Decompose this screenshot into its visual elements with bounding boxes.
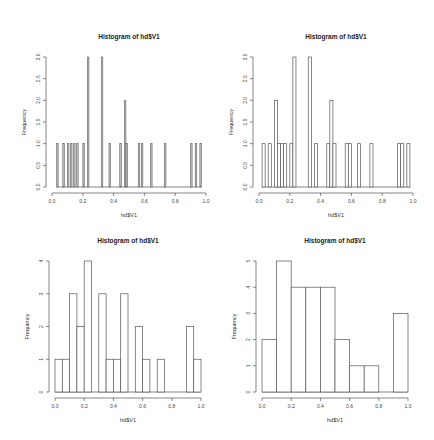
histogram-bar <box>126 144 128 187</box>
y-tick-label: 2.0 <box>35 97 41 104</box>
histogram-bar <box>157 359 164 392</box>
histogram-bar <box>350 366 365 392</box>
histogram-panel-1: Histogram of hd$V10.00.20.40.60.81.0hd$V… <box>21 33 210 218</box>
x-tick-label: 0.6 <box>139 403 146 409</box>
histogram-bar <box>84 261 91 392</box>
y-axis-label: Frequency <box>231 313 237 339</box>
histogram-bar <box>106 359 113 392</box>
histogram-panel-3: Histogram of hd$V10.00.20.40.60.81.0hd$V… <box>24 237 205 423</box>
histogram-bar <box>164 144 166 187</box>
histogram-bar <box>121 294 128 392</box>
chart-title: Histogram of hd$V1 <box>97 237 159 245</box>
histogram-bar <box>151 144 153 187</box>
x-tick-label: 0.0 <box>49 198 56 204</box>
histogram-bar <box>191 144 193 187</box>
y-tick-label: 1 <box>38 358 44 361</box>
histogram-bar <box>143 359 150 392</box>
histogram-bar <box>306 287 321 392</box>
x-tick-label: 0.0 <box>256 198 263 204</box>
y-tick-label: 4 <box>245 286 251 289</box>
x-tick-label: 0.6 <box>346 403 353 409</box>
histogram-bar <box>348 144 351 187</box>
histogram-bar <box>293 57 296 187</box>
x-axis-label: hd$V1 <box>121 212 137 218</box>
histogram-bar <box>398 144 401 187</box>
x-axis-label: hd$V1 <box>327 417 343 423</box>
y-axis-label: Frequency <box>24 313 30 339</box>
x-tick-label: 0.8 <box>375 403 382 409</box>
histogram-bar <box>262 340 277 392</box>
y-tick-label: 2.5 <box>242 75 248 82</box>
y-tick-label: 0.5 <box>35 162 41 169</box>
x-tick-label: 0.4 <box>317 198 324 204</box>
x-tick-label: 0.2 <box>79 198 86 204</box>
x-tick-label: 0.4 <box>110 198 117 204</box>
histogram-bar <box>70 294 77 392</box>
bars <box>55 261 201 392</box>
y-tick-label: 3.0 <box>242 53 248 60</box>
x-tick-label: 0.0 <box>52 403 59 409</box>
y-tick-label: 0.0 <box>242 183 248 190</box>
histogram-bar <box>333 144 336 187</box>
histogram-bar <box>320 287 335 392</box>
histogram-bar <box>63 144 65 187</box>
x-tick-label: 0.6 <box>141 198 148 204</box>
histogram-bar <box>330 100 333 187</box>
histogram-bar <box>327 144 330 187</box>
histogram-bar <box>99 294 106 392</box>
histogram-bar <box>277 144 280 187</box>
histogram-bar <box>135 327 142 393</box>
histogram-bar <box>74 144 76 187</box>
histogram-bar <box>194 359 201 392</box>
histogram-bar <box>83 144 85 187</box>
histogram-bar <box>186 327 193 393</box>
y-tick-label: 0.5 <box>242 162 248 169</box>
histogram-bar <box>284 144 287 187</box>
x-axis-label: hd$V1 <box>328 212 344 218</box>
y-tick-label: 0 <box>38 390 44 393</box>
y-tick-label: 3.0 <box>35 53 41 60</box>
x-tick-label: 1.0 <box>203 198 210 204</box>
histogram-bar <box>109 144 111 187</box>
y-tick-label: 3 <box>245 312 251 315</box>
x-axis-label: hd$V1 <box>120 417 136 423</box>
y-axis-label: Frequency <box>228 109 234 135</box>
x-tick-label: 0.4 <box>317 403 324 409</box>
histogram-bar <box>62 359 69 392</box>
x-tick-label: 0.2 <box>81 403 88 409</box>
chart-title: Histogram of hd$V1 <box>304 237 366 245</box>
x-tick-label: 0.8 <box>168 403 175 409</box>
histogram-bar <box>314 144 317 187</box>
histogram-bar <box>262 144 265 187</box>
histogram-bar <box>67 144 69 187</box>
histogram-grid: Histogram of hd$V10.00.20.40.60.81.0hd$V… <box>0 0 434 440</box>
histogram-bar <box>70 144 72 187</box>
x-tick-label: 0.0 <box>259 403 266 409</box>
histogram-bar <box>268 144 271 187</box>
bars <box>262 261 408 392</box>
x-tick-label: 0.2 <box>286 198 293 204</box>
histogram-bar <box>57 144 59 187</box>
histogram-panel-4: Histogram of hd$V10.00.20.40.60.81.0hd$V… <box>231 237 412 423</box>
histogram-bar <box>77 144 79 187</box>
y-tick-label: 3 <box>38 292 44 295</box>
x-tick-label: 0.4 <box>110 403 117 409</box>
y-tick-label: 0.0 <box>35 183 41 190</box>
y-tick-label: 1.5 <box>35 118 41 125</box>
chart-title: Histogram of hd$V1 <box>98 33 160 41</box>
y-tick-label: 1.0 <box>242 140 248 147</box>
histogram-bar <box>55 359 62 392</box>
histogram-bar <box>358 144 361 187</box>
histogram-bar <box>200 144 202 187</box>
x-tick-label: 0.8 <box>172 198 179 204</box>
histogram-bar <box>281 144 284 187</box>
histogram-bar <box>113 359 120 392</box>
y-axis-label: Frequency <box>21 109 27 135</box>
x-tick-label: 1.0 <box>410 198 417 204</box>
histogram-bar <box>138 144 140 187</box>
histogram-bar <box>364 366 379 392</box>
histogram-bar <box>101 57 103 187</box>
x-tick-label: 0.2 <box>288 403 295 409</box>
histogram-bar <box>87 57 89 187</box>
bars <box>262 57 410 187</box>
